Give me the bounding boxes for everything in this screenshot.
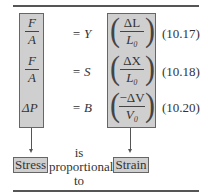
right-paren-icon: ) xyxy=(145,12,155,47)
equals-modulus-3: = B xyxy=(72,100,92,116)
denominator: V₀ xyxy=(117,108,147,122)
to-label: to xyxy=(62,173,96,189)
denominator: L₀ xyxy=(118,33,146,47)
equation-number-1: (10.17) xyxy=(162,26,200,42)
right-paren-icon: ) xyxy=(145,50,155,85)
denominator: A xyxy=(22,33,42,47)
bottom-rule xyxy=(13,190,199,192)
strain-fraction-2: ΔX L₀ xyxy=(118,54,146,85)
numerator: F xyxy=(22,54,42,68)
numerator: −ΔV xyxy=(117,91,147,105)
lhs-fraction-1: F A xyxy=(22,16,42,47)
numerator: F xyxy=(22,16,42,30)
denominator: L₀ xyxy=(118,71,146,85)
numerator: ΔX xyxy=(118,54,146,68)
denominator: A xyxy=(22,71,42,85)
strain-label-box: Strain xyxy=(113,157,149,173)
top-rule xyxy=(13,5,199,7)
right-paren-icon: ) xyxy=(145,87,155,122)
numerator: ΔL xyxy=(118,16,146,30)
stress-label-box: Stress xyxy=(13,157,48,173)
strain-arrow-icon xyxy=(130,128,131,150)
strain-fraction-1: ΔL L₀ xyxy=(118,16,146,47)
equation-number-3: (10.20) xyxy=(162,100,200,116)
strain-fraction-3: −ΔV V₀ xyxy=(117,91,147,122)
equals-modulus-2: = S xyxy=(72,64,91,80)
equals-modulus-1: = Y xyxy=(72,26,91,42)
lhs-delta-p: ΔP xyxy=(22,100,38,116)
equation-number-2: (10.18) xyxy=(162,64,200,80)
lhs-fraction-2: F A xyxy=(22,54,42,85)
stress-arrow-icon xyxy=(31,128,32,150)
